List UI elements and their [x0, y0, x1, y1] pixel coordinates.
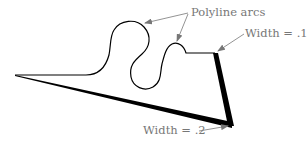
thick-segment-bottom	[15, 75, 232, 128]
arrow-to-arc-1	[145, 13, 188, 23]
label-width-bottom: Width = .2	[143, 123, 206, 137]
label-width-top: Width = .1	[245, 26, 308, 40]
thick-segment-right	[213, 53, 234, 126]
label-polyline-arcs: Polyline arcs	[191, 5, 265, 19]
arrow-width-top	[218, 34, 244, 51]
polyline-arc-path	[15, 21, 215, 89]
polyline-diagram: Polyline arcs Width = .1 Width = .2	[0, 0, 308, 148]
arrow-to-arc-2	[177, 14, 188, 41]
